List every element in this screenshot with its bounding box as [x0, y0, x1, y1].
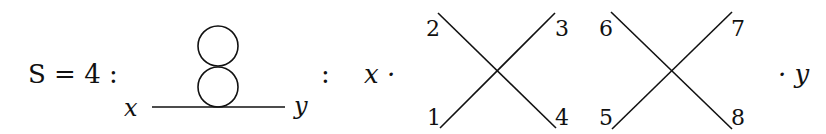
leg-label: 4 — [555, 105, 569, 130]
separator-colon: : — [321, 59, 330, 89]
upper-loop — [198, 26, 238, 66]
vertex-2 — [611, 12, 732, 129]
leg-label: 8 — [731, 105, 745, 130]
leg-label: 7 — [731, 16, 745, 41]
leg-label: 1 — [427, 105, 441, 130]
feynman-diagram — [152, 26, 285, 107]
vertex-1 — [438, 13, 556, 128]
external-point-y: y — [293, 92, 308, 120]
lower-loop — [198, 67, 238, 107]
leg-label: 3 — [555, 16, 569, 41]
symmetry-factor-equation: S = 4 : x y : x · 2 3 1 4 6 7 5 8 · y — [0, 0, 826, 134]
left-factor: x · — [364, 59, 395, 89]
right-factor: · y — [778, 59, 810, 89]
diagram-svg: S = 4 : x y : x · 2 3 1 4 6 7 5 8 · y — [0, 0, 826, 134]
external-point-x: x — [124, 94, 138, 122]
leg-label: 6 — [599, 16, 613, 41]
leg-label: 5 — [599, 105, 613, 130]
leg-label: 2 — [426, 16, 440, 41]
symmetry-factor-label: S = 4 : — [28, 59, 118, 89]
